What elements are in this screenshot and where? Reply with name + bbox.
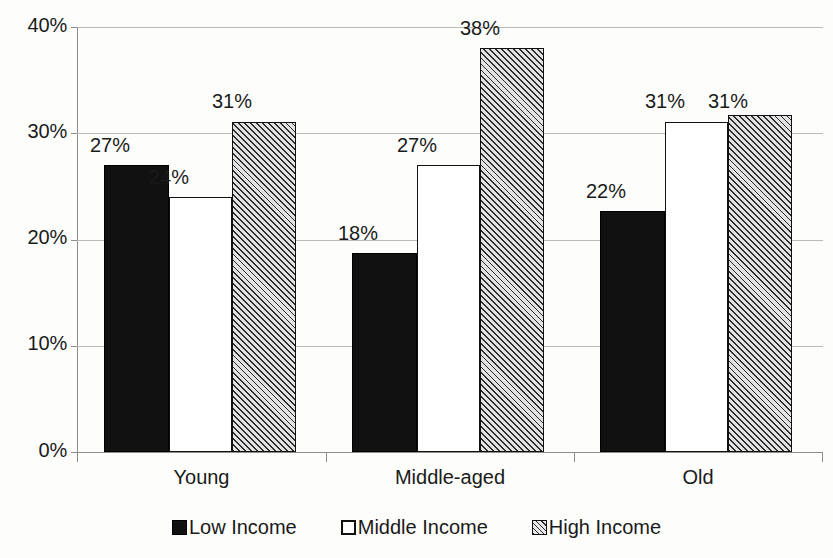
- x-axis-tick-start: [77, 452, 78, 462]
- bar-middle-aged-middle-income: [417, 165, 480, 452]
- legend-item-high-income: High Income: [532, 516, 661, 539]
- legend-label-low-income: Low Income: [189, 516, 297, 539]
- bar-old-high-income: [728, 115, 792, 452]
- bar-young-middle-income: [169, 197, 232, 452]
- y-axis-labels: 40% 30% 20% 10% 0%: [0, 0, 67, 558]
- y-axis-label-20: 20%: [3, 226, 67, 249]
- value-label-young-high-income: 31%: [200, 90, 264, 113]
- value-label-old-low-income: 22%: [574, 180, 638, 203]
- value-label-middle-aged-middle-income: 27%: [385, 134, 449, 157]
- legend-label-high-income: High Income: [549, 516, 661, 539]
- y-axis-label-30: 30%: [3, 120, 67, 143]
- value-label-young-middle-income: 24%: [137, 166, 201, 189]
- legend-swatch-middle-income-icon: [341, 520, 356, 535]
- value-label-old-middle-income: 31%: [633, 90, 697, 113]
- legend-swatch-low-income-icon: [172, 520, 187, 535]
- bar-old-middle-income: [665, 122, 728, 452]
- x-axis-tick-end: [822, 452, 823, 462]
- value-label-middle-aged-high-income: 38%: [448, 17, 512, 40]
- x-axis-category-young: Young: [77, 466, 326, 489]
- bar-young-low-income: [104, 165, 169, 452]
- x-axis-category-middle-aged: Middle-aged: [326, 466, 574, 489]
- value-label-young-low-income: 27%: [78, 134, 142, 157]
- x-axis-category-old: Old: [574, 466, 822, 489]
- bar-old-low-income: [600, 211, 665, 452]
- bar-chart: 40% 30% 20% 10% 0% 27% 24% 31% 18% 27% 3…: [0, 0, 833, 558]
- legend-item-low-income: Low Income: [172, 516, 297, 539]
- bar-middle-aged-low-income: [352, 253, 417, 452]
- x-axis-tick-2: [574, 452, 575, 462]
- x-axis-line: [77, 452, 823, 453]
- y-axis-label-40: 40%: [3, 14, 67, 37]
- y-axis-label-10: 10%: [3, 332, 67, 355]
- value-label-old-high-income: 31%: [696, 90, 760, 113]
- x-axis-tick-1: [326, 452, 327, 462]
- legend-label-middle-income: Middle Income: [358, 516, 488, 539]
- y-axis-label-0: 0%: [3, 439, 67, 462]
- bar-middle-aged-high-income: [480, 48, 544, 452]
- legend: Low Income Middle Income High Income: [0, 516, 833, 539]
- legend-swatch-high-income-icon: [532, 520, 547, 535]
- value-label-middle-aged-low-income: 18%: [326, 222, 390, 245]
- bar-young-high-income: [232, 122, 296, 452]
- legend-item-middle-income: Middle Income: [341, 516, 488, 539]
